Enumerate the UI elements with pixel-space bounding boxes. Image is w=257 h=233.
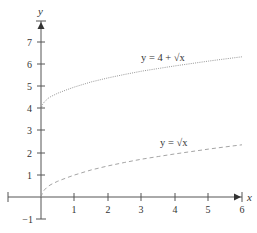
y-tick-label: 4	[27, 103, 32, 114]
x-tick-label: 3	[139, 204, 144, 215]
function-plot: x y 1 2 3 4 5 6 7 6 5 4 3 2 1 −1 y = 4 +…	[0, 0, 257, 233]
x-tick-label: 2	[106, 204, 111, 215]
y-tick-label: 3	[27, 125, 32, 136]
curve-sqrt-x	[41, 145, 242, 197]
y-tick-label: 2	[27, 148, 32, 159]
x-axis-label: x	[246, 191, 252, 203]
y-axis-arrow-icon	[38, 22, 45, 29]
curve-label-upper: y = 4 + √x	[141, 52, 186, 63]
y-tick-label: −1	[22, 214, 33, 225]
x-axis	[8, 192, 242, 202]
x-tick-label: 6	[240, 204, 245, 215]
y-tick-label: 6	[27, 59, 32, 70]
x-tick-label: 5	[206, 204, 211, 215]
y-tick-label: 7	[27, 37, 32, 48]
x-tick-label: 1	[72, 204, 77, 215]
y-tick-label: 1	[27, 170, 32, 181]
y-tick-label: 5	[27, 81, 32, 92]
curve-4-plus-sqrt-x	[41, 57, 242, 109]
x-tick-label: 4	[173, 204, 178, 215]
x-axis-arrow-icon	[234, 194, 241, 201]
y-axis-label: y	[37, 5, 43, 17]
curve-label-lower: y = √x	[160, 137, 188, 148]
